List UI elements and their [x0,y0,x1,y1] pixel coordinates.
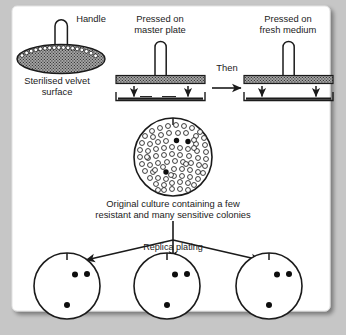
sensitive-colony [148,142,153,147]
sensitive-colony [143,169,148,174]
resistant-colony [274,272,280,278]
sensitive-colony [156,176,161,181]
sensitive-colony [197,163,202,168]
resistant-colony [174,138,179,143]
sensitive-colony [188,175,193,180]
sensitive-colony [167,131,172,136]
sensitive-colony [196,177,201,182]
culture-caption-line1: Original culture containing a few [106,198,240,209]
sensitive-colony [162,153,167,158]
sensitive-colony [150,129,155,134]
sensitive-colony [162,146,167,151]
sensitive-colony [145,155,150,160]
sensitive-colony [165,160,170,165]
sensitive-colony [176,131,181,136]
replica-plating-figure: Handle Sterilised velvet surface Pressed… [0,0,346,335]
sensitive-colony [148,176,153,181]
sensitive-colony [201,171,206,176]
sensitive-colony [178,153,183,158]
sensitive-colony [196,156,201,161]
replica-plate [34,253,100,319]
sensitive-colony [182,124,187,129]
master-plate-label-line2: master plate [134,24,186,35]
sensitive-colony [187,154,192,159]
sensitive-colony [180,174,185,179]
resistant-colony [185,139,190,144]
sensitive-colony [202,136,207,141]
sensitive-colony [156,188,161,193]
replica-plating-label: Replica plating [143,242,203,252]
sensitive-colony [192,146,197,151]
replica-plate [236,253,302,319]
master-velvet-bar-icon [116,76,205,84]
resistant-colony [286,271,292,277]
sensitive-colony [146,149,151,154]
sensitive-colony [204,150,209,155]
fresh-medium-label-line1: Pressed on [264,13,311,24]
resistant-colony [84,271,90,277]
then-label: Then [216,62,237,73]
sensitive-colony [138,155,143,160]
sensitive-colony [204,157,209,162]
fresh-velvet-bar-icon [244,76,333,84]
sensitive-colony [166,124,171,129]
sensitive-colony [164,139,169,144]
resistant-colony [172,272,178,278]
sensitive-colony [186,181,191,186]
sensitive-colony [190,126,195,131]
sensitive-colony [170,145,175,150]
sensitive-colony [140,141,145,146]
sensitive-colony [151,135,156,140]
sensitive-colony [138,148,143,153]
sensitive-colony [198,130,203,135]
master-plate-label-line1: Pressed on [136,13,183,24]
sensitive-colony [159,133,164,138]
sensitive-colony [153,168,158,173]
replica-plate-outline [134,253,200,319]
sensitive-colony [203,164,208,169]
sensitive-colony [170,187,175,192]
sensitive-colony [140,162,145,167]
resistant-colony [72,272,78,278]
sensitive-colony [173,159,178,164]
sensitive-colony [170,152,175,157]
handle-label: Handle [76,13,106,24]
fresh-medium-label-line2: fresh medium [260,24,317,35]
velvet-caption-line2: surface [42,86,73,97]
sensitive-colony [164,177,169,182]
sensitive-colony [192,183,197,188]
replica-plates-row [34,253,302,319]
sensitive-colony [203,143,208,148]
sensitive-colony [154,182,159,187]
sensitive-colony [186,147,191,152]
sensitive-colony [162,183,167,188]
sensitive-colony [158,126,163,131]
resistant-colony [64,302,70,308]
sensitive-colony [178,180,183,185]
sensitive-colony [188,168,193,173]
velvet-pad-icon [17,45,105,74]
resistant-colony [266,302,272,308]
sensitive-colony [154,147,159,152]
sensitive-colony [192,138,197,143]
culture-caption-line2: resistant and many sensitive colonies [95,209,251,220]
velvet-caption-line1: Sterilised velvet [24,75,90,86]
sensitive-colony [178,146,183,151]
sensitive-colony [156,161,161,166]
sensitive-colony [174,123,179,128]
sensitive-colony [143,134,148,139]
sensitive-colony [170,181,175,186]
sensitive-colony [148,163,153,168]
sensitive-colony [184,162,189,167]
diagram-canvas: Handle Sterilised velvet surface Pressed… [0,0,346,335]
sensitive-colony [178,187,183,192]
sensitive-colony [180,167,185,172]
replica-plate [134,253,200,319]
resistant-colony [164,302,170,308]
sensitive-colony [172,167,177,172]
resistant-colony [184,271,190,277]
sensitive-colony [186,188,191,193]
replica-plate-outline [34,253,100,319]
resistant-colony [163,169,168,174]
sensitive-colony [189,161,194,166]
